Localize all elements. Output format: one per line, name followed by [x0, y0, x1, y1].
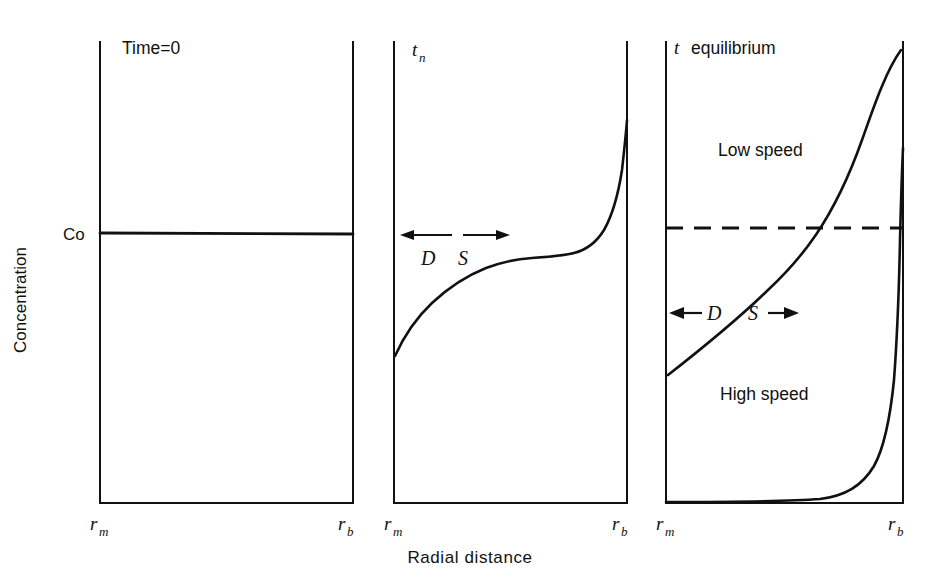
panel2-xtick-rb: r b — [612, 513, 628, 539]
panel-equilibrium: D S Low speed High speed t equilibrium r… — [656, 37, 904, 539]
sedimentation-arrow-head — [496, 230, 510, 240]
intermediate-time-curve — [395, 120, 627, 356]
panel2-xtick-rm: r m — [384, 513, 402, 539]
panel1-axes — [100, 42, 353, 503]
panel3-rb-sub: b — [897, 524, 904, 539]
low-speed-equilibrium-curve — [668, 50, 901, 375]
panel1-xtick-rm: r m — [90, 513, 108, 539]
panel2-title: t n — [412, 39, 426, 65]
diffusion-arrow-head — [400, 230, 414, 240]
panel2-axes — [394, 42, 627, 503]
concentration-vs-radial-distance-figure: Co Time=0 r m r b D — [0, 0, 940, 588]
panel1-rm-base: r — [90, 513, 98, 534]
panel1-rb-base: r — [338, 513, 346, 534]
uniform-concentration-line — [100, 233, 353, 234]
panel3-xtick-rm: r m — [656, 513, 674, 539]
panel3-title-base: t — [674, 37, 680, 58]
panel3-rb-base: r — [888, 513, 896, 534]
panel-tn: D S t n r m r b — [384, 39, 628, 539]
panel3-rm-base: r — [656, 513, 664, 534]
panel2-title-base: t — [412, 39, 418, 60]
sedimentation-arrow — [463, 230, 510, 240]
low-speed-label: Low speed — [718, 140, 803, 160]
diffusion-arrow — [400, 230, 452, 240]
diffusion-label: D — [420, 247, 436, 269]
diffusion-arrow-head — [669, 307, 684, 319]
panel3-rm-sub: m — [665, 524, 674, 539]
diffusion-arrow — [669, 307, 702, 319]
high-speed-label: High speed — [720, 384, 809, 404]
x-axis-title: Radial distance — [407, 548, 532, 567]
panel1-xtick-rb: r b — [338, 513, 354, 539]
panel1-rb-sub: b — [347, 524, 354, 539]
sedimentation-label: S — [748, 302, 758, 324]
co-tick-label: Co — [63, 225, 85, 244]
sedimentation-arrow-head — [784, 307, 799, 319]
panel-time-zero: Co Time=0 r m r b — [63, 38, 354, 539]
sedimentation-label: S — [458, 247, 468, 269]
panel3-title: t equilibrium — [674, 37, 776, 58]
panel3-title-rest: equilibrium — [691, 38, 776, 58]
panel2-rb-sub: b — [621, 524, 628, 539]
panel3-xtick-rb: r b — [888, 513, 904, 539]
panel2-title-sub: n — [419, 50, 426, 65]
panel1-rm-sub: m — [99, 524, 108, 539]
sedimentation-arrow — [768, 307, 799, 319]
panel1-title: Time=0 — [122, 38, 180, 58]
panel2-rb-base: r — [612, 513, 620, 534]
panel2-rm-base: r — [384, 513, 392, 534]
diffusion-label: D — [706, 302, 722, 324]
y-axis-title: Concentration — [11, 247, 30, 353]
figure-container: Co Time=0 r m r b D — [0, 0, 940, 588]
panel2-rm-sub: m — [393, 524, 402, 539]
high-speed-equilibrium-curve — [666, 148, 903, 502]
